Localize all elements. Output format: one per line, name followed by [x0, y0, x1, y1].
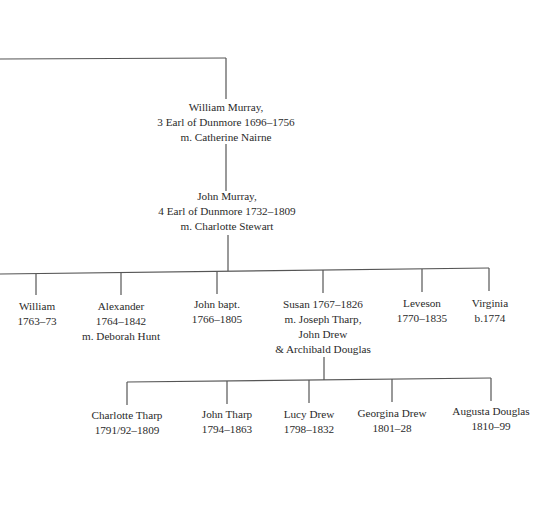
- node-line: 1766–1805: [192, 312, 242, 327]
- node-grandchild-augusta-douglas: Augusta Douglas 1810–99: [452, 404, 529, 434]
- node-john-murray-4th-earl: John Murray, 4 Earl of Dunmore 1732–1809…: [158, 189, 295, 234]
- node-line: b.1774: [472, 311, 508, 326]
- node-name: John Murray,: [158, 189, 295, 204]
- node-line: William: [17, 299, 56, 314]
- node-line: 1794–1863: [202, 422, 252, 437]
- node-spouse: m. Charlotte Stewart: [158, 219, 295, 234]
- node-line: 1763–73: [17, 314, 56, 329]
- node-line: Alexander: [82, 299, 160, 314]
- node-spouse: m. Catherine Nairne: [157, 130, 294, 145]
- node-line: Georgina Drew: [357, 406, 426, 421]
- node-child-susan: Susan 1767–1826 m. Joseph Tharp, John Dr…: [275, 297, 371, 357]
- node-line: m. Joseph Tharp,: [275, 312, 371, 327]
- node-line: Virginia: [472, 296, 508, 311]
- node-line: 1764–1842: [82, 314, 160, 329]
- node-grandchild-john-tharp: John Tharp 1794–1863: [202, 407, 252, 437]
- node-child-alexander: Alexander 1764–1842 m. Deborah Hunt: [82, 299, 160, 344]
- node-child-leveson: Leveson 1770–1835: [397, 296, 447, 326]
- node-line: John Tharp: [202, 407, 252, 422]
- node-line: & Archibald Douglas: [275, 342, 371, 357]
- node-line: Leveson: [397, 296, 447, 311]
- node-line: 1810–99: [452, 419, 529, 434]
- node-grandchild-charlotte-tharp: Charlotte Tharp 1791/92–1809: [92, 408, 163, 438]
- node-line: Lucy Drew: [284, 407, 335, 422]
- node-william-murray-3rd-earl: William Murray, 3 Earl of Dunmore 1696–1…: [157, 100, 294, 145]
- node-line: 1798–1832: [284, 422, 335, 437]
- node-child-william: William 1763–73: [17, 299, 56, 329]
- node-grandchild-georgina-drew: Georgina Drew 1801–28: [357, 406, 426, 436]
- node-line: Charlotte Tharp: [92, 408, 163, 423]
- node-line: John Drew: [275, 327, 371, 342]
- tree-connectors: [0, 0, 551, 521]
- node-line: 1801–28: [357, 421, 426, 436]
- node-line: 1791/92–1809: [92, 423, 163, 438]
- node-line: John bapt.: [192, 297, 242, 312]
- node-child-john: John bapt. 1766–1805: [192, 297, 242, 327]
- node-child-virginia: Virginia b.1774: [472, 296, 508, 326]
- node-line: Augusta Douglas: [452, 404, 529, 419]
- family-tree: William Murray, 3 Earl of Dunmore 1696–1…: [0, 0, 551, 521]
- node-line: 1770–1835: [397, 311, 447, 326]
- node-name: William Murray,: [157, 100, 294, 115]
- node-grandchild-lucy-drew: Lucy Drew 1798–1832: [284, 407, 335, 437]
- node-title: 4 Earl of Dunmore 1732–1809: [158, 204, 295, 219]
- node-line: m. Deborah Hunt: [82, 329, 160, 344]
- node-title: 3 Earl of Dunmore 1696–1756: [157, 115, 294, 130]
- node-line: Susan 1767–1826: [275, 297, 371, 312]
